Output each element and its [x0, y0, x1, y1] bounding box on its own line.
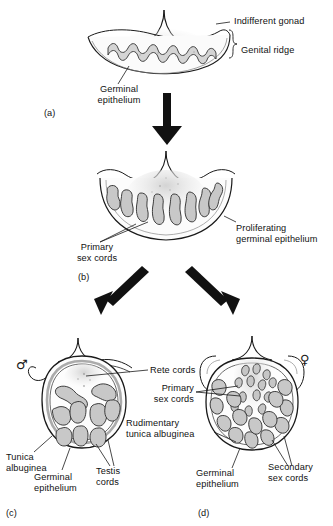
gonad-development-diagram [0, 0, 333, 526]
label-germinal-epithelium-c: Germinal epithelium [34, 472, 77, 493]
female-symbol: ♀ [300, 352, 310, 367]
label-secondary-sex-cords: Secondary sex cords [268, 462, 313, 483]
label-indifferent-gonad: Indifferent gonad [234, 16, 305, 27]
arrow-a-to-b [152, 93, 182, 145]
panel-letter-c: (c) [6, 508, 17, 518]
arrow-b-to-c [94, 266, 149, 315]
label-testis-cords: Testis cords [96, 466, 120, 487]
panel-letter-d: (d) [198, 508, 209, 518]
figure-canvas: Indifferent gonad Genital ridge Germinal… [0, 0, 333, 526]
panel-d-illustration [196, 336, 304, 468]
arrow-b-to-d [185, 266, 240, 315]
label-rudimentary-tunica-albuginea: Rudimentary tunica albuginea [126, 418, 195, 439]
label-primary-sex-cords-b: Primary sex cords [62, 242, 132, 263]
panel-b-illustration [97, 151, 236, 242]
label-rete-cords: Rete cords [150, 365, 195, 376]
label-primary-sex-cords-d: Primary sex cords [126, 383, 194, 404]
label-genital-ridge: Genital ridge [241, 45, 294, 56]
label-tunica-albuginea: Tunica albuginea [6, 452, 47, 473]
label-germinal-epithelium-a: Germinal epithelium [84, 84, 154, 105]
panel-letter-a: (a) [44, 108, 55, 118]
panel-a-illustration [88, 10, 237, 84]
label-proliferating-germinal-epithelium: Proliferating germinal epithelium [236, 223, 318, 244]
panel-letter-b: (b) [78, 272, 89, 282]
male-symbol: ♂ [16, 357, 28, 372]
label-germinal-epithelium-d: Germinal epithelium [196, 468, 239, 489]
